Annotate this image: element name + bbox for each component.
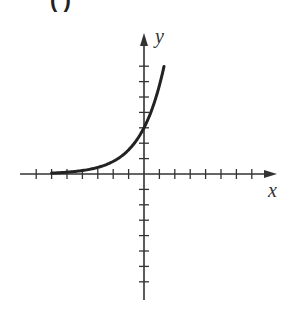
axes	[20, 33, 277, 300]
y-axis-arrow-icon	[140, 33, 148, 46]
exponential-curve	[52, 66, 164, 173]
exponential-graph: x y	[0, 0, 295, 335]
x-axis-arrow-icon	[264, 170, 277, 178]
x-axis-label: x	[267, 179, 277, 201]
y-axis-label: y	[153, 25, 164, 48]
